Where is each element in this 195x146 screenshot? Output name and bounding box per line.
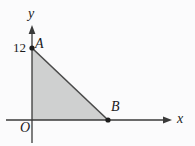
- y-axis-label: y: [28, 7, 34, 21]
- point-label-B: B: [111, 100, 120, 114]
- geometry-figure: y x O A B 12: [0, 0, 195, 146]
- y-axis-arrowhead-icon: [29, 25, 36, 34]
- point-marker-A: [29, 45, 34, 50]
- x-axis-label: x: [177, 112, 183, 126]
- x-axis-arrowhead-icon: [163, 117, 172, 124]
- y-axis-tick-label-12: 12: [13, 41, 26, 54]
- origin-label: O: [20, 121, 30, 135]
- point-label-A: A: [35, 37, 44, 51]
- point-marker-B: [105, 117, 110, 122]
